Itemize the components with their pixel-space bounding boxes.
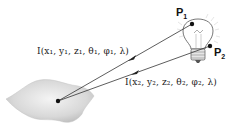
ray-p1-label: I(x₁, y₁, z₁, θ₁, φ₁, λ) (37, 46, 129, 56)
point-p1-label: P1 (176, 6, 187, 20)
point-subscript: 1 (183, 13, 187, 20)
point-p2-dot (208, 44, 212, 48)
ray-p2-label: I(x₂, y₂, z₂, θ₂, φ₂, λ) (125, 77, 217, 87)
diagram-graphics (0, 0, 241, 135)
surface-point-dot (56, 99, 60, 103)
light-field-diagram: P1 P2 I(x₁, y₁, z₁, θ₁, φ₁, λ) I(x₂, y₂,… (0, 0, 241, 135)
point-p1-dot (190, 22, 194, 26)
point-p2-label: P2 (214, 46, 225, 60)
ray-p1 (58, 24, 192, 101)
surface-patch (6, 80, 94, 123)
point-subscript: 2 (221, 53, 225, 60)
light-bulb-icon (183, 19, 213, 63)
